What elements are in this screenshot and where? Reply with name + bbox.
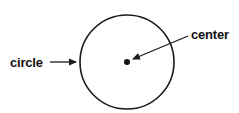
circle-diagram: circle center <box>0 0 239 113</box>
center-point <box>124 59 130 65</box>
circle-label: circle <box>10 55 43 70</box>
center-label: center <box>191 27 229 42</box>
center-pointer-arrow <box>133 36 188 59</box>
diagram-canvas: circle center <box>0 0 239 113</box>
